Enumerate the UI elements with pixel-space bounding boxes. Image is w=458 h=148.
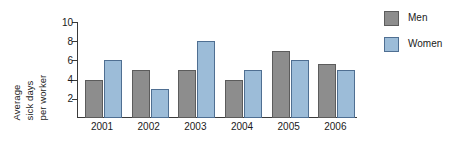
x-axis-tick-label-2002: 2002 [127, 122, 171, 132]
x-axis-tick-label-2006: 2006 [313, 122, 357, 132]
bar-women-2004 [244, 70, 262, 118]
plot-area: 246810 200120022003200420052006 [77, 22, 357, 118]
x-axis-tick-label-2005: 2005 [267, 122, 311, 132]
legend-item-label: Men [408, 13, 427, 23]
bar-women-2002 [151, 89, 169, 118]
x-axis-tick-label-2001: 2001 [80, 122, 124, 132]
legend-item-label: Women [408, 39, 442, 49]
y-axis-tick-label: 6 [67, 56, 73, 66]
bar-group [270, 22, 311, 118]
y-axis-title: Average sick days per worker [8, 18, 54, 120]
x-axis-tick-label-2004: 2004 [220, 122, 264, 132]
bar-group [83, 22, 124, 118]
men-swatch-icon [384, 11, 399, 26]
y-axis-tick-label: 8 [67, 37, 73, 47]
y-axis-tick-label: 10 [62, 18, 73, 28]
bar-men-2005 [272, 51, 290, 118]
women-swatch-icon [384, 37, 399, 52]
y-axis-title-line-3: per worker [38, 74, 48, 120]
bar-women-2005 [291, 60, 309, 118]
bar-men-2002 [132, 70, 150, 118]
bar-group [130, 22, 171, 118]
bar-men-2001 [85, 80, 103, 118]
bar-women-2006 [337, 70, 355, 118]
y-axis-title-line-1: Average [12, 84, 22, 120]
legend-item-women: Women [384, 36, 454, 52]
y-axis-title-line-2: sick days [25, 80, 35, 120]
bar-chart-figure: Average sick days per worker 246810 2001… [0, 0, 458, 148]
bar-women-2001 [104, 60, 122, 118]
legend-item-men: Men [384, 10, 454, 26]
y-axis-tick-label: 4 [67, 75, 73, 85]
chart-legend: MenWomen [384, 10, 454, 62]
x-axis-tick-label-2003: 2003 [173, 122, 217, 132]
bar-group [316, 22, 357, 118]
bar-men-2003 [178, 70, 196, 118]
bar-group [176, 22, 217, 118]
bar-men-2004 [225, 80, 243, 118]
bar-women-2003 [197, 41, 215, 118]
bar-group [223, 22, 264, 118]
bars-layer [77, 22, 357, 118]
bar-men-2006 [318, 64, 336, 118]
y-axis-tick-label: 2 [67, 94, 73, 104]
